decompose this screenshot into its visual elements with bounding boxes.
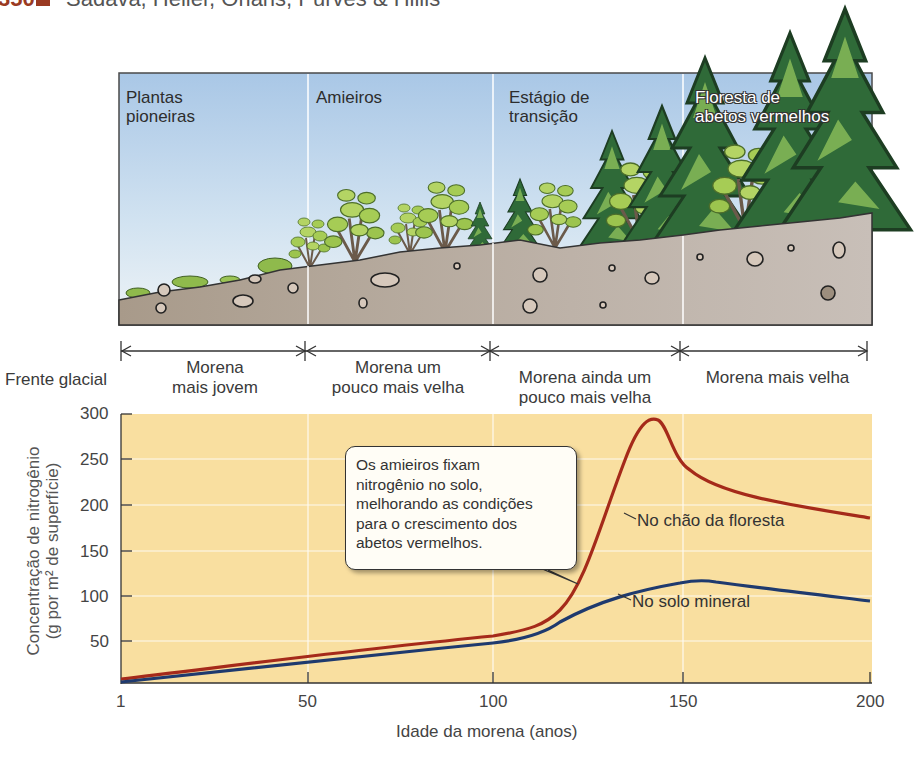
moraine-segment-older: Morena um pouco mais velha <box>318 358 478 398</box>
y-tick-200: 200 <box>80 496 108 516</box>
moraine-segment-youngest: Morena mais jovem <box>160 358 270 398</box>
stage-label-transition: Estágio de transição <box>509 88 589 126</box>
y-tick-150: 150 <box>80 542 108 562</box>
x-axis-title: Idade da morena (anos) <box>396 722 577 742</box>
moraine-segment-oldest: Morena mais velha <box>695 368 860 388</box>
x-tick-200: 200 <box>856 692 884 712</box>
y-tick-100: 100 <box>80 587 108 607</box>
series-label-forest-floor: No chão da floresta <box>637 511 784 531</box>
y-tick-50: 50 <box>90 632 109 652</box>
glacial-front-label: Frente glacial <box>5 370 107 390</box>
x-tick-50: 50 <box>298 692 317 712</box>
moraine-segment-even-older: Morena ainda um pouco mais velha <box>505 368 665 408</box>
x-tick-1: 1 <box>116 692 125 712</box>
stage-label-spruce-forest: Floresta de abetos vermelhos <box>695 88 829 126</box>
alder-nitrogen-callout: Os amieiros fixam nitrogênio no solo, me… <box>345 446 577 570</box>
stage-label-alders: Amieiros <box>316 88 382 107</box>
x-tick-100: 100 <box>479 692 507 712</box>
series-label-mineral-soil: No solo mineral <box>632 592 750 612</box>
y-tick-250: 250 <box>80 450 108 470</box>
stage-label-pioneer: Plantas pioneiras <box>126 88 195 126</box>
y-axis-title: Concentração de nitrogênio (g por m² de … <box>24 411 62 691</box>
x-tick-150: 150 <box>669 692 697 712</box>
y-tick-300: 300 <box>80 404 108 424</box>
